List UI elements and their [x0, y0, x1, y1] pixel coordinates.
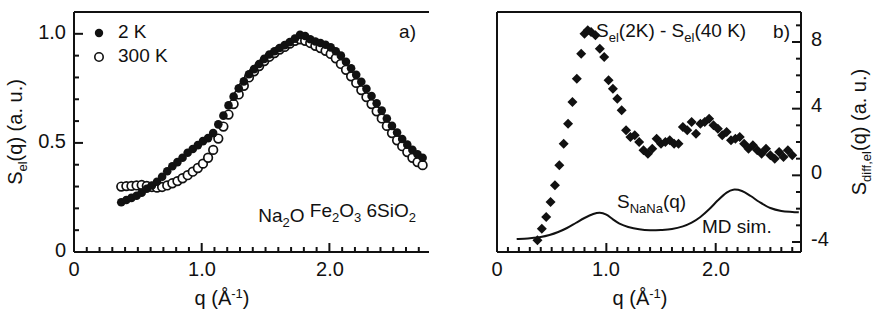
panel-b-xtick-0: 0 — [491, 258, 502, 280]
data-point-2k — [357, 78, 366, 87]
data-point-300k — [209, 146, 218, 155]
panel-b-ytick-8: 8 — [811, 28, 822, 50]
data-point-300k — [204, 153, 213, 162]
panel-a-ytick-05: 0.5 — [38, 130, 66, 152]
panel-a-label: a) — [399, 21, 416, 42]
panel-a-xtick-2: 2.0 — [316, 258, 344, 280]
legend-marker-open-circle — [95, 53, 103, 61]
data-point-2k — [229, 92, 238, 101]
data-point-2k — [383, 114, 392, 123]
panel-b-ytick-m4: -4 — [811, 228, 829, 250]
panel-b-label: b) — [773, 21, 790, 42]
legend-label-2k: 2 K — [118, 21, 147, 42]
legend-marker-filled-circle — [95, 29, 103, 37]
data-point-2k — [352, 71, 361, 80]
panel-b-xtick-2: 2.0 — [702, 258, 730, 280]
data-point-2k — [209, 129, 218, 138]
data-point-2k — [219, 111, 228, 120]
data-point-2k — [214, 120, 223, 129]
figure-root: 0 0.5 1.0 0 1.0 2.0 q (Å-1) Sel(q) (a. u… — [0, 0, 886, 315]
data-point-2k — [362, 85, 371, 94]
panel-b-ytick-0: 0 — [811, 161, 822, 183]
panel-a-xtick-1: 1.0 — [188, 258, 216, 280]
data-point-2k — [418, 153, 427, 162]
legend-label-300k: 300 K — [118, 45, 168, 66]
panel-b-annotation-md: MD sim. — [702, 216, 772, 237]
panel-a-ytick-0: 0 — [55, 239, 66, 261]
panel-b-xtick-1: 1.0 — [592, 258, 620, 280]
data-point-2k — [234, 84, 243, 93]
panel-a-ytick-10: 1.0 — [38, 21, 66, 43]
data-point-2k — [377, 106, 386, 115]
data-point-300k — [418, 161, 427, 170]
data-point-2k — [367, 92, 376, 101]
data-point-2k — [372, 99, 381, 108]
data-point-2k — [240, 77, 249, 86]
panel-a-xtick-0: 0 — [68, 258, 79, 280]
data-point-2k — [224, 101, 233, 110]
figure-canvas: 0 0.5 1.0 0 1.0 2.0 q (Å-1) Sel(q) (a. u… — [0, 0, 886, 315]
panel-b-ytick-4: 4 — [811, 94, 822, 116]
